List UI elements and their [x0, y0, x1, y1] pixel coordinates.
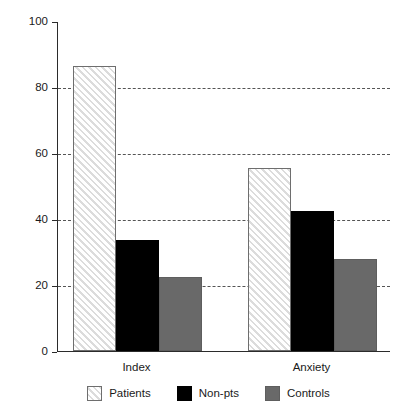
legend-item-non-pts[interactable]: Non-pts [177, 386, 239, 401]
y-tick-mark-0 [52, 352, 57, 353]
legend-label: Controls [287, 388, 330, 400]
y-tick-label-100: 100 [4, 16, 48, 28]
legend-item-patients[interactable]: Patients [87, 386, 151, 401]
legend-item-controls[interactable]: Controls [265, 386, 330, 401]
y-tick-label-80: 80 [4, 82, 48, 94]
x-group-label-index: Index [122, 362, 150, 374]
bar-chart: 020406080100 IndexAnxiety PatientsNon-pt… [0, 0, 417, 417]
legend-label: Patients [109, 388, 151, 400]
y-tick-label-40: 40 [4, 214, 48, 226]
x-group-label-anxiety: Anxiety [293, 362, 331, 374]
y-tick-label-20: 20 [4, 280, 48, 292]
plot-area [57, 22, 390, 352]
bar-index-controls [159, 277, 202, 351]
bar-index-non-pts [116, 240, 159, 351]
bar-anxiety-non-pts [291, 211, 334, 351]
legend-swatch-patients-icon [87, 386, 102, 401]
legend-swatch-controls-icon [265, 386, 280, 401]
y-tick-label-60: 60 [4, 148, 48, 160]
y-tick-label-0: 0 [4, 346, 48, 358]
bar-anxiety-controls [334, 259, 377, 351]
chart-legend: PatientsNon-ptsControls [0, 386, 417, 401]
plot-inner [58, 22, 390, 351]
legend-swatch-nonpts-icon [177, 386, 192, 401]
legend-label: Non-pts [199, 388, 239, 400]
bar-index-patients [73, 66, 116, 351]
bar-anxiety-patients [248, 168, 291, 351]
